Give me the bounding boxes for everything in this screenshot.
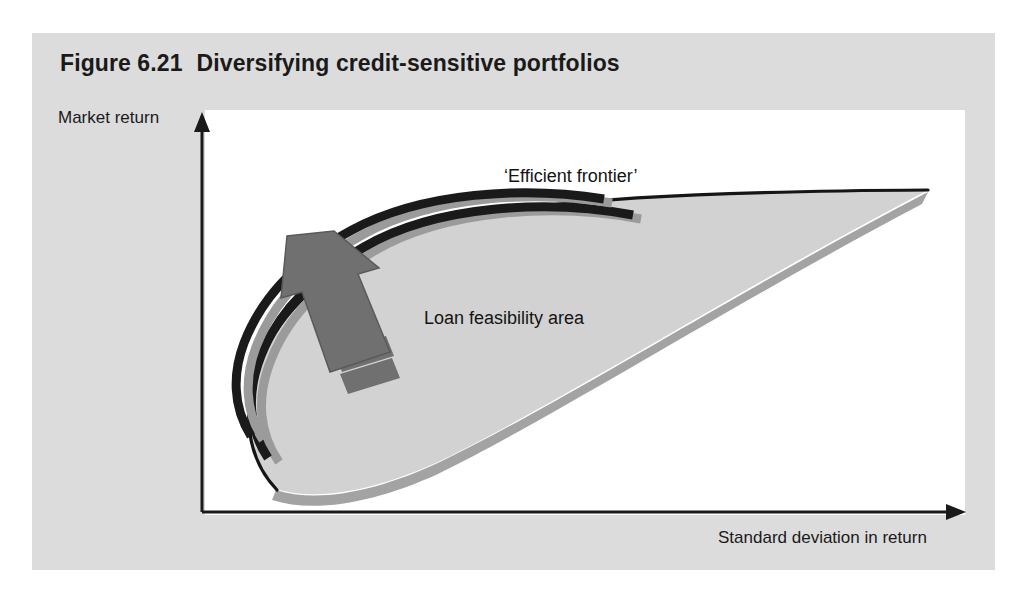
chart-graphic — [0, 0, 1031, 601]
figure-container: Figure 6.21Diversifying credit-sensitive… — [0, 0, 1031, 601]
y-axis-arrowhead — [194, 112, 210, 132]
loan-feasibility-label: Loan feasibility area — [424, 308, 584, 329]
efficient-frontier-label: ‘Efficient frontier’ — [504, 166, 637, 187]
x-axis-arrowhead — [946, 504, 966, 520]
